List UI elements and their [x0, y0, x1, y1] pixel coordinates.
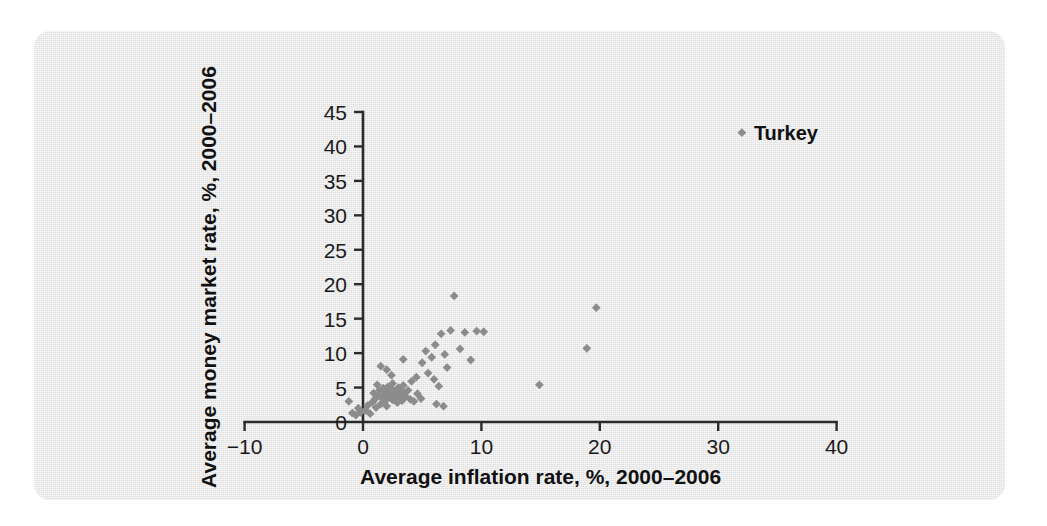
y-tick-label-5: 5 [335, 377, 347, 400]
data-point [430, 375, 439, 384]
data-point [582, 344, 591, 353]
data-point [466, 356, 475, 365]
data-point [479, 327, 488, 336]
data-point [440, 350, 449, 359]
x-tick-label-40: 40 [825, 435, 848, 458]
x-tick-label-30: 30 [707, 435, 730, 458]
y-tick-label-45: 45 [324, 101, 347, 124]
data-point [439, 402, 448, 411]
annotation-label: Turkey [754, 122, 819, 144]
y-tick-label-0: 0 [335, 411, 347, 434]
y-tick-label-25: 25 [324, 239, 347, 262]
annotations-group: Turkey [754, 122, 819, 144]
data-point [431, 340, 440, 349]
data-point [443, 363, 452, 372]
data-point [737, 128, 746, 137]
data-point [460, 328, 469, 337]
x-axis-title: Average inflation rate, %, 2000–2006 [360, 465, 721, 488]
data-point [427, 353, 436, 362]
data-point [424, 369, 433, 378]
y-axis-title: Average money market rate, %, 2000–2006 [197, 66, 220, 488]
scatter-plot: −10010203040051015202530354045Average in… [0, 0, 1047, 526]
x-tick-label-0: 0 [357, 435, 369, 458]
y-tick-label-15: 15 [324, 308, 347, 331]
data-point [437, 329, 446, 338]
y-tick-label-35: 35 [324, 170, 347, 193]
data-point [456, 345, 465, 354]
data-point [450, 292, 459, 301]
y-tick-label-20: 20 [324, 273, 347, 296]
axis-labels-group: −10010203040051015202530354045Average in… [197, 66, 848, 488]
y-tick-label-40: 40 [324, 135, 347, 158]
x-tick-label-10: 10 [470, 435, 493, 458]
data-points-group [344, 128, 746, 419]
data-point [434, 382, 443, 391]
data-point [535, 380, 544, 389]
x-tick-label--10: −10 [227, 435, 263, 458]
data-point [446, 326, 455, 335]
x-tick-label-20: 20 [588, 435, 611, 458]
data-point [472, 327, 481, 336]
data-point [418, 358, 427, 367]
data-point [432, 400, 441, 409]
data-point [399, 355, 408, 364]
data-point [421, 347, 430, 356]
y-tick-label-10: 10 [324, 342, 347, 365]
data-point [592, 303, 601, 312]
y-tick-label-30: 30 [324, 204, 347, 227]
